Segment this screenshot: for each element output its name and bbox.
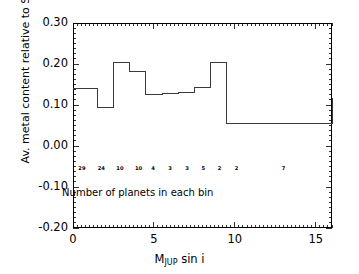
bin-count-label: 4 bbox=[145, 166, 161, 171]
y-tick-label: -0.20 bbox=[22, 222, 68, 234]
bin-count-label: 10 bbox=[112, 166, 128, 171]
x-axis-title-suffix: sin i bbox=[178, 252, 205, 266]
x-tick-label: 0 bbox=[58, 234, 88, 246]
bin-count-label: 3 bbox=[179, 166, 195, 171]
x-axis-title-subscript: JUP bbox=[164, 258, 177, 267]
chart-annotation: Number of planets in each bin bbox=[62, 187, 213, 198]
bin-count-label: 3 bbox=[162, 166, 178, 171]
y-tick-label: 0.30 bbox=[22, 17, 68, 29]
bin-count-label: 7 bbox=[275, 166, 291, 171]
y-tick-label: 0.10 bbox=[22, 99, 68, 111]
bin-count-label: 5 bbox=[195, 166, 211, 171]
bin-count-label: 29 bbox=[74, 166, 90, 171]
x-tick-label: 15 bbox=[301, 234, 331, 246]
x-axis-title-base: M bbox=[155, 252, 165, 266]
y-tick-label: 0.20 bbox=[22, 58, 68, 70]
bin-count-label: 2 bbox=[211, 166, 227, 171]
step-data-line bbox=[73, 63, 332, 124]
bin-count-label: 24 bbox=[93, 166, 109, 171]
y-tick-label: -0.10 bbox=[22, 181, 68, 193]
bin-count-label: 2 bbox=[228, 166, 244, 171]
x-tick-label: 10 bbox=[220, 234, 250, 246]
x-axis-title: MJUP sin i bbox=[0, 252, 359, 267]
chart-figure: Av. metal content relative to Sun (dex) … bbox=[0, 0, 359, 274]
y-tick-label: 0.00 bbox=[22, 140, 68, 152]
x-tick-label: 5 bbox=[139, 234, 169, 246]
